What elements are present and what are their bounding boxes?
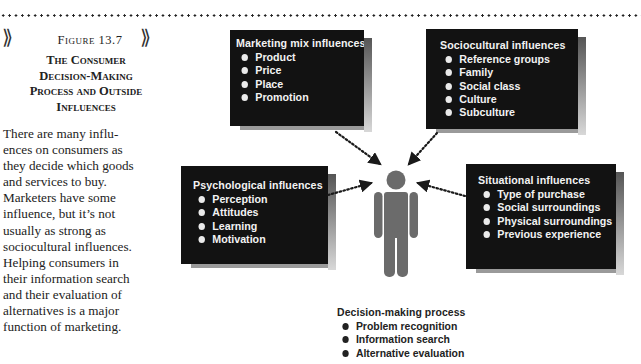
bullet-icon	[342, 323, 348, 330]
list-item-label: Alternative evaluation	[356, 346, 464, 359]
decision-process-list: Problem recognition Information search A…	[337, 319, 480, 359]
list-item-label: Information search	[356, 332, 450, 345]
list-item: Problem recognition	[337, 319, 465, 332]
arrow-situational	[418, 183, 465, 196]
decision-process: Decision-making process Problem recognit…	[337, 305, 480, 359]
arrow-psychological	[328, 183, 371, 195]
influence-arrows	[0, 0, 641, 364]
list-item-label: Problem recognition	[356, 319, 457, 332]
list-item: Alternative evaluation	[337, 346, 465, 359]
arrow-sociocultural	[409, 133, 437, 164]
list-item: Information search	[337, 332, 465, 345]
bullet-icon	[342, 350, 348, 357]
person-icon	[372, 170, 420, 280]
bullet-icon	[342, 336, 348, 343]
decision-process-title: Decision-making process	[337, 305, 465, 318]
arrow-marketing	[336, 132, 380, 164]
